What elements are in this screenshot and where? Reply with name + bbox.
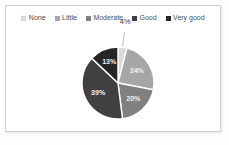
- pie-leader-line-none: [123, 32, 125, 46]
- pie-label-none: 4%: [120, 17, 131, 26]
- pie-label-moderate: 20%: [126, 95, 141, 102]
- pie-label-good: 39%: [91, 89, 106, 96]
- pie-slice-group: [82, 47, 154, 119]
- pie-plot-area: 4%24%20%39%13%: [6, 6, 222, 133]
- pie-leader-line-group: [123, 32, 125, 46]
- pie-chart-svg: 4%24%20%39%13%: [6, 6, 222, 133]
- pie-label-very-good: 13%: [102, 58, 117, 65]
- chart-frame: None Little Moderate Good Very good: [5, 5, 221, 132]
- pie-label-little: 24%: [130, 67, 145, 74]
- screenshot-root: None Little Moderate Good Very good: [0, 0, 229, 145]
